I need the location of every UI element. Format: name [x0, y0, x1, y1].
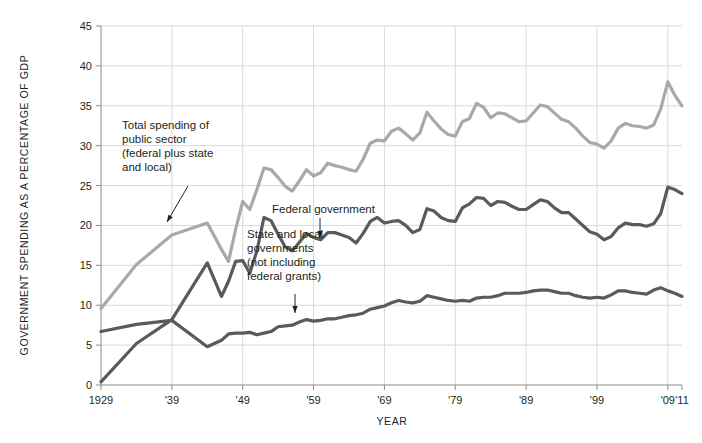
x-tick-label: '39 — [165, 394, 179, 406]
y-tick-label: 45 — [80, 20, 92, 32]
annotation-text-line: (not including — [247, 256, 315, 268]
annotation-text-line: Total spending of — [122, 119, 210, 131]
x-tick-label: '69 — [377, 394, 391, 406]
y-tick-label: 0 — [86, 379, 92, 391]
y-tick-label: 25 — [80, 180, 92, 192]
x-tick-label: '49 — [236, 394, 250, 406]
annotation-text-line: and local) — [122, 161, 172, 173]
annotation-text-line: Federal government — [272, 203, 376, 215]
x-axis-title: YEAR — [377, 415, 408, 427]
annotation-text-line: (federal plus state — [122, 147, 213, 159]
x-tick-label: '99 — [590, 394, 604, 406]
annotation-text-line: governments — [247, 242, 314, 254]
x-tick-label: '79 — [448, 394, 462, 406]
annotation-text-line: federal grants) — [247, 270, 321, 282]
government-spending-line-chart: 051015202530354045 1929'39'49'59'69'79'8… — [0, 0, 702, 443]
annotation-text-line: State and local — [247, 228, 323, 240]
y-tick-label: 30 — [80, 140, 92, 152]
x-tick-label: '09 — [661, 394, 675, 406]
x-tick-label: '11 — [675, 394, 689, 406]
y-tick-label: 5 — [86, 339, 92, 351]
y-tick-label: 35 — [80, 100, 92, 112]
chart-container: 051015202530354045 1929'39'49'59'69'79'8… — [0, 0, 702, 443]
x-tick-label: 1929 — [89, 394, 113, 406]
y-tick-label: 40 — [80, 60, 92, 72]
y-axis-title: GOVERNMENT SPENDING AS A PERCENTAGE OF G… — [18, 55, 30, 356]
y-tick-label: 10 — [80, 299, 92, 311]
annotation-text-line: public sector — [122, 133, 187, 145]
x-tick-label: '59 — [306, 394, 320, 406]
x-tick-label: '89 — [519, 394, 533, 406]
y-tick-label: 20 — [80, 219, 92, 231]
y-tick-label: 15 — [80, 259, 92, 271]
